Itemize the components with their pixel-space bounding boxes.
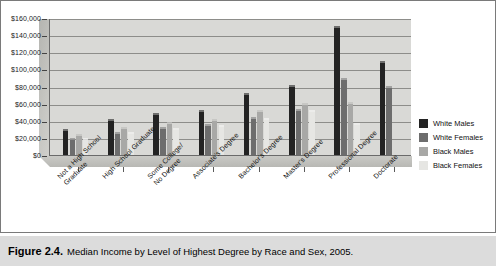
legend-label: Black Males xyxy=(433,147,473,156)
bar-0-7 xyxy=(380,63,386,155)
y-axis-tick-label: $20,000 xyxy=(1,135,41,142)
bar-0-2 xyxy=(153,115,159,155)
y-axis-tick-label: $60,000 xyxy=(1,101,41,108)
bar-0-3 xyxy=(199,112,205,155)
y-axis-tick-mark xyxy=(42,122,47,123)
x-axis-tick-mark xyxy=(123,167,124,172)
legend-swatch-icon xyxy=(419,133,428,142)
bar-face xyxy=(251,119,257,155)
bar-face xyxy=(296,111,302,155)
y-axis-tick-mark xyxy=(42,53,47,54)
bar-face xyxy=(341,80,347,155)
bar-face xyxy=(348,104,354,155)
bar-face xyxy=(153,115,159,155)
y-axis-tick-mark xyxy=(42,105,47,106)
bar-1-4 xyxy=(251,119,257,155)
y-axis-tick-mark xyxy=(42,139,47,140)
bar-face xyxy=(108,121,114,155)
y-axis-tick-label: $100,000 xyxy=(1,66,41,73)
bar-face xyxy=(244,95,250,155)
bar-face xyxy=(386,88,392,155)
bar-face xyxy=(334,28,340,155)
x-axis-tick-mark xyxy=(213,167,214,172)
y-axis-tick-mark xyxy=(42,156,47,157)
bar-2-6 xyxy=(348,104,354,155)
legend-item: White Females xyxy=(419,133,491,142)
gridline xyxy=(50,19,411,20)
bar-1-3 xyxy=(205,126,211,155)
gridline xyxy=(50,88,411,89)
y-axis-tick-label: $40,000 xyxy=(1,118,41,125)
legend-label: Black Females xyxy=(433,161,482,170)
y-axis-tick-mark xyxy=(42,36,47,37)
y-axis-tick-label: $140,000 xyxy=(1,32,41,39)
gridline xyxy=(50,53,411,54)
x-axis-tick-mark xyxy=(394,167,395,172)
bar-1-5 xyxy=(296,111,302,155)
bar-face xyxy=(380,63,386,155)
y-axis-tick-label: $80,000 xyxy=(1,84,41,91)
chart-figure-panel: $0$20,000$40,000$60,000$80,000$100,000$1… xyxy=(0,0,496,233)
bar-face xyxy=(115,134,121,155)
legend-item: Black Males xyxy=(419,147,491,156)
bar-2-5 xyxy=(302,105,308,155)
y-axis-tick-mark xyxy=(42,88,47,89)
y-axis-tick-label: $120,000 xyxy=(1,49,41,56)
bar-1-2 xyxy=(160,129,166,155)
bar-face xyxy=(63,131,69,155)
legend-label: White Males xyxy=(433,119,474,128)
y-axis-tick-label: $160,000 xyxy=(1,15,41,22)
bar-face xyxy=(205,126,211,155)
figure-page: $0$20,000$40,000$60,000$80,000$100,000$1… xyxy=(0,0,496,266)
bar-face xyxy=(70,140,76,155)
x-axis-tick-mark xyxy=(349,167,350,172)
legend-item: White Males xyxy=(419,119,491,128)
bar-1-6 xyxy=(341,80,347,155)
y-axis-tick-label: $0 xyxy=(1,152,41,159)
gridline xyxy=(50,105,411,106)
figure-caption: Figure 2.4.Median Income by Level of Hig… xyxy=(0,245,353,257)
bar-face xyxy=(160,129,166,155)
gridline xyxy=(50,36,411,37)
figure-caption-text: Median Income by Level of Highest Degree… xyxy=(67,246,353,257)
legend-swatch-icon xyxy=(419,161,428,170)
figure-caption-bar: Figure 2.4.Median Income by Level of Hig… xyxy=(0,236,496,266)
legend-label: White Females xyxy=(433,133,483,142)
bar-face xyxy=(289,87,295,156)
bar-0-1 xyxy=(108,121,114,155)
bar-0-4 xyxy=(244,95,250,155)
bar-0-5 xyxy=(289,87,295,156)
chart-legend: White MalesWhite FemalesBlack MalesBlack… xyxy=(419,119,491,175)
bar-face xyxy=(199,112,205,155)
y-axis-tick-mark xyxy=(42,19,47,20)
bar-face xyxy=(302,105,308,155)
bar-1-1 xyxy=(115,134,121,155)
bar-1-7 xyxy=(386,88,392,155)
bar-1-0 xyxy=(70,140,76,155)
figure-number: Figure 2.4. xyxy=(8,245,63,257)
legend-swatch-icon xyxy=(419,119,428,128)
x-axis-tick-mark xyxy=(304,167,305,172)
legend-swatch-icon xyxy=(419,147,428,156)
bar-0-6 xyxy=(334,28,340,155)
y-axis-tick-mark xyxy=(42,70,47,71)
legend-item: Black Females xyxy=(419,161,491,170)
x-axis-tick-mark xyxy=(259,167,260,172)
gridline xyxy=(50,70,411,71)
bar-0-0 xyxy=(63,131,69,155)
